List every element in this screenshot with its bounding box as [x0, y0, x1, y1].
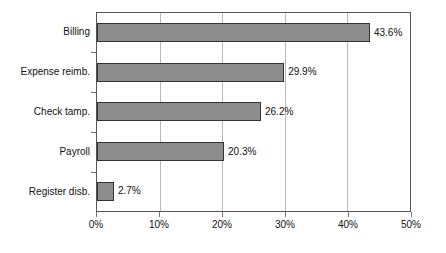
value-label-0: 0%: [89, 220, 103, 230]
value-label-40: 40%: [338, 220, 358, 230]
bar-row-register-disb: 2.7%: [97, 171, 410, 211]
value-label-50: 50%: [401, 220, 421, 230]
bar-row-check-tamp: 26.2%: [97, 92, 410, 132]
value-label-30: 30%: [275, 220, 295, 230]
plot-area: 43.6% 29.9% 26.2% 20.3% 2.7%: [96, 12, 411, 212]
bar-bands: 43.6% 29.9% 26.2% 20.3% 2.7%: [97, 13, 410, 211]
value-tick-20: [222, 212, 223, 217]
value-tick-50: [411, 212, 412, 217]
value-axis-labels: 0% 10% 20% 30% 40% 50%: [96, 220, 411, 236]
category-label-payroll: Payroll: [0, 147, 90, 157]
bar-payroll: 20.3%: [97, 142, 224, 161]
bar-check-tamp: 26.2%: [97, 102, 261, 121]
bar-value-check-tamp: 26.2%: [265, 107, 293, 117]
bar-expense-reimb: 29.9%: [97, 63, 284, 82]
bar-row-expense-reimb: 29.9%: [97, 53, 410, 93]
bar-value-payroll: 20.3%: [228, 147, 256, 157]
bar-value-register-disb: 2.7%: [118, 186, 141, 196]
value-tick-40: [348, 212, 349, 217]
bar-row-billing: 43.6%: [97, 13, 410, 53]
value-tick-30: [285, 212, 286, 217]
bar-billing: 43.6%: [97, 23, 370, 42]
value-label-20: 20%: [212, 220, 232, 230]
category-axis-labels: Billing Expense reimb. Check tamp. Payro…: [0, 12, 90, 212]
bar-chart: Billing Expense reimb. Check tamp. Payro…: [0, 0, 446, 253]
category-label-billing: Billing: [0, 27, 90, 37]
bar-register-disb: 2.7%: [97, 182, 114, 201]
bar-value-expense-reimb: 29.9%: [288, 67, 316, 77]
category-label-expense-reimb: Expense reimb.: [0, 67, 90, 77]
value-label-10: 10%: [149, 220, 169, 230]
category-label-register-disb: Register disb.: [0, 187, 90, 197]
value-tick-0: [96, 212, 97, 217]
value-tick-10: [159, 212, 160, 217]
category-label-check-tamp: Check tamp.: [0, 107, 90, 117]
bar-value-billing: 43.6%: [374, 28, 402, 38]
value-axis-ticks: [96, 212, 411, 217]
bar-row-payroll: 20.3%: [97, 132, 410, 172]
